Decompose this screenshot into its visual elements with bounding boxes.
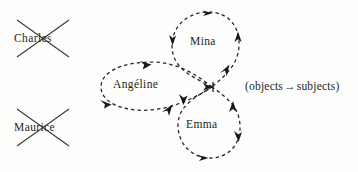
arrowhead-emma-left [179,94,188,105]
node-label-emma: Emma [186,118,218,130]
arrowhead-mina-hub-entry [220,65,230,77]
arrowhead-mina-left [169,35,176,46]
legend-caption: (objects→subjects) [245,80,339,92]
node-label-angeline: Angéline [113,78,158,90]
legend-arrow-icon: → [283,80,297,92]
arrowhead-emma-bottom [198,155,209,161]
arrowhead-mina-right [235,32,242,43]
node-label-maurice: Maurice [14,121,55,133]
arrowhead-angeline-bottom [162,105,173,116]
node-label-mina: Mina [190,35,216,47]
legend-close-paren: ) [335,80,339,92]
legend-objects-text: objects [249,80,283,92]
loop-path-mina [172,12,239,87]
arrowhead-emma-right-upper [229,101,237,112]
arrowhead-emma-right-lower [234,131,242,142]
loop-curve-mina [172,12,239,87]
arrowhead-mina-top [203,11,213,17]
node-label-charles: Charles [14,32,52,44]
legend-subjects-text: subjects [297,80,336,92]
